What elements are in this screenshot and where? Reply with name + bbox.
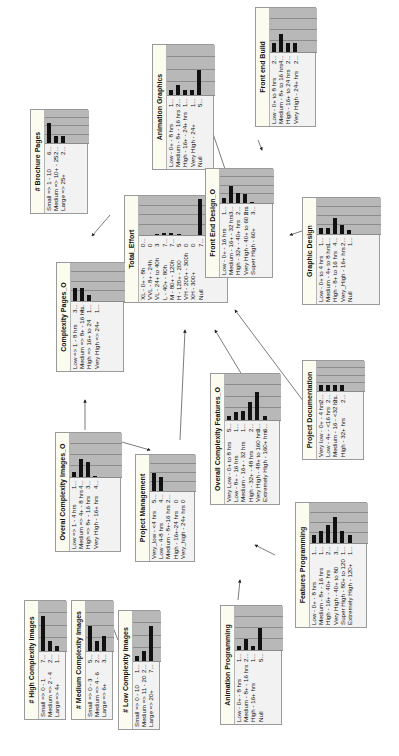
state-row[interactable]: Extremely High - 120+1... <box>346 503 353 627</box>
state-row[interactable]: High - 16+ - 24+ hrs1... <box>181 45 188 169</box>
state-row[interactable]: Small => 0 - 35... <box>86 601 93 719</box>
state-row[interactable]: Extremely High - 160+ hrs6... <box>261 374 268 504</box>
node-graphic-design[interactable]: Graphic DesignLow - 0+ to 4 hrs1...Mediu… <box>302 197 380 305</box>
state-row[interactable]: Medium - 16+ - 32 hrs3... <box>227 169 234 277</box>
state-row[interactable]: Very_High - 16+ hrs2... <box>339 198 346 304</box>
state-row[interactable]: Super High - 60+3... <box>249 169 256 277</box>
node-title: Animation Graphics <box>153 45 167 169</box>
state-row[interactable]: Large => 25+2... <box>59 110 66 213</box>
node-title: Project Documentation <box>303 361 317 459</box>
node-high-complexity-images[interactable]: # High Complexity ImagesSmall => 0 - 17.… <box>24 600 66 720</box>
state-row[interactable]: Low => 1 - 8 hrs3... <box>71 263 78 371</box>
state-row[interactable]: Medium - 8+ - 16 hrs2... <box>242 606 249 724</box>
bayesian-network-canvas: Total_EffortXL - 0+ - 8h0...VVL - 8+ - 2… <box>0 0 399 756</box>
state-row[interactable]: High - 32+ - 48 hrs2... <box>247 374 254 504</box>
state-label: High - 16+-24 hrs <box>172 511 179 559</box>
state-row[interactable]: Very High - 40+ to 60 hrs2... <box>242 169 249 277</box>
state-row[interactable]: Very High - 24+ hrs2... <box>292 8 299 126</box>
state-row[interactable]: L - 40+ - 80h7... <box>161 196 168 302</box>
node-features-programming[interactable]: Features ProgrammingLow - 0+ - 8 hrs1...… <box>295 502 367 628</box>
state-row[interactable]: Very_high - 24+ hrs0 <box>179 455 186 561</box>
state-label: High - 32+ - 40+ hrs <box>234 220 241 275</box>
state-row[interactable]: Null5... <box>257 606 264 724</box>
state-row[interactable]: XL - 0+ - 8h0... <box>139 196 146 302</box>
state-row[interactable]: Very High - 24+1... <box>189 45 196 169</box>
state-row[interactable]: Medium - 8+-16 hrs2... <box>164 455 171 561</box>
state-row[interactable]: Medium - 16 - <32 hrs2... <box>331 361 338 459</box>
node-overall-complexity-images[interactable]: Overal Complexity Images_OLow => 1 - 4 h… <box>55 432 121 552</box>
state-row[interactable]: Low => 1 - 4 hrs1... <box>70 433 77 551</box>
state-row[interactable]: Medium - 16+ - 32 hrs1... <box>239 374 246 504</box>
state-row[interactable]: High - 16+ to 24 hrs2... <box>284 8 291 126</box>
state-label: Medium => 8+ - 16 hrs <box>78 307 85 369</box>
state-row[interactable]: Low - 0+ - 16 hrs1... <box>220 169 227 277</box>
state-row[interactable]: Low - 4-8 hrs4... <box>157 455 164 561</box>
state-row[interactable]: Medium => 11 - 202... <box>140 611 147 729</box>
state-row[interactable]: XH - 300+0 <box>189 196 196 302</box>
state-row[interactable]: Low - 0+ to 8 hrs2... <box>270 8 277 126</box>
state-row[interactable]: Medium => 8+ - 16 hrs4... <box>78 263 85 371</box>
state-row[interactable]: Null1... <box>346 198 353 304</box>
state-row[interactable]: High - 8+ to 16 hrs4... <box>331 198 338 304</box>
state-row[interactable]: Low - 0+ - 8 hrs1... <box>310 503 317 627</box>
node-brochure-pages[interactable]: # Brochure PagesSmall => 1 - 106...Mediu… <box>30 109 88 214</box>
state-row[interactable]: Null7... <box>197 196 204 302</box>
node-front-end-build[interactable]: Front end BuildLow - 0+ to 8 hrs2...Medi… <box>255 7 316 127</box>
state-row[interactable]: High - 16+ - 40+ hrs2... <box>324 503 331 627</box>
state-row[interactable]: Large => 4+1... <box>53 601 60 719</box>
state-row[interactable]: VH - 200+ - 300h0 <box>182 196 189 302</box>
node-overall-complexity-features[interactable]: Overall Complexity Features_OVery Low - … <box>210 373 280 505</box>
state-row[interactable]: VL - 24+ to 40h3 <box>153 196 160 302</box>
state-row[interactable]: Medium - 4+ to 8 hrs1... <box>324 198 331 304</box>
node-project-documentation[interactable]: Project DocumentationVery low - 0+ - 4 h… <box>302 360 364 460</box>
state-row[interactable]: Super High - 80+ to 1201... <box>339 503 346 627</box>
node-title: Front End Design_O <box>206 169 220 277</box>
state-row[interactable]: Small => 1 - 106... <box>45 110 52 213</box>
state-row[interactable]: Low - 4+ - <16 hrs2... <box>324 361 331 459</box>
node-animation-graphics[interactable]: Animation GraphicsLow - 0+ - 8 hrs1...Me… <box>152 44 214 170</box>
state-row[interactable]: Low - 0+ - 8 hrs1... <box>167 45 174 169</box>
state-row[interactable]: Medium => 4 - 62... <box>93 601 100 719</box>
state-row[interactable]: Medium - 8+ to 16 hrs4... <box>277 8 284 126</box>
state-row[interactable]: Very High - 16+ hrs4... <box>92 433 99 551</box>
state-label: H - 120+ - 200 <box>175 260 182 300</box>
state-label: High - 16+ - 40+ hrs <box>324 570 331 625</box>
node-complexity-pages[interactable]: Complexity Pages_OLow => 1 - 8 hrs3...Me… <box>56 262 124 372</box>
node-front-end-design[interactable]: Front End Design_OLow - 0+ - 16 hrs1...M… <box>205 168 273 278</box>
state-row[interactable]: H - 120+ - 2005 <box>175 196 182 302</box>
node-low-complexity-images[interactable]: # Low Complexity ImagesSmall => 0 - 101.… <box>118 610 160 730</box>
state-row[interactable]: Null5... <box>196 45 203 169</box>
state-row[interactable]: Very High => 24+1... <box>93 263 100 371</box>
state-row[interactable]: VVL - 8+ - 24h0 <box>146 196 153 302</box>
state-probability: 2... <box>234 206 241 215</box>
state-row[interactable]: Low - 8+ - 16 hrs1... <box>232 374 239 504</box>
state-row[interactable]: Medium - 8+ - 16 hrs1... <box>317 503 324 627</box>
state-row[interactable]: Very High - 48+ to 160 hrs3... <box>254 374 261 504</box>
node-project-management[interactable]: Project ManagementVery_low - <4 hrs5...L… <box>135 454 195 562</box>
node-medium-complexity-images[interactable]: # Medium Complexity ImagesSmall => 0 - 3… <box>71 600 113 720</box>
state-row[interactable]: High => 16+ to 241... <box>85 263 92 371</box>
state-row[interactable]: High - 32+ - 40+ hrs2... <box>234 169 241 277</box>
state-row[interactable]: Large => 6+3... <box>100 601 107 719</box>
state-row[interactable]: Medium => 2 - 42... <box>46 601 53 719</box>
state-row[interactable]: High - 16+ hrs1... <box>249 606 256 724</box>
state-row[interactable]: Medium => 4+ - 8 hrs4... <box>77 433 84 551</box>
state-row[interactable]: Small => 0 - 17... <box>39 601 46 719</box>
state-row[interactable]: Very_low - <4 hrs5... <box>150 455 157 561</box>
state-row[interactable]: Large => 20+7... <box>147 611 154 729</box>
state-probability: 0 <box>182 244 189 247</box>
state-row[interactable]: Low - 0+ to 4 hrs1... <box>317 198 324 304</box>
state-row[interactable]: Small => 0 - 101... <box>133 611 140 729</box>
state-row[interactable]: High - 32+ hrs2... <box>339 361 346 459</box>
state-row[interactable]: M - 80+ - 120h7... <box>168 196 175 302</box>
state-row[interactable]: High - 16+-24 hrs0 <box>172 455 179 561</box>
node-animation-programming[interactable]: Animation ProgrammingLow - 0+ - 8 hrs1..… <box>220 605 282 725</box>
state-probability: 3... <box>84 480 91 489</box>
state-row[interactable]: Very low - 0+ - 4 hrs2... <box>317 361 324 459</box>
state-row[interactable]: Medium - 8+ - 16 hrs2... <box>174 45 181 169</box>
state-row[interactable]: Very High - 40+ to 803... <box>332 503 339 627</box>
state-row[interactable]: Low - 0+ - 8 hrs1... <box>235 606 242 724</box>
state-row[interactable]: Very Low - 0+ to 8 hrs5... <box>225 374 232 504</box>
state-row[interactable]: Medium => 10+ - 252... <box>52 110 59 213</box>
state-row[interactable]: High => 8+ - 16 hrs3... <box>84 433 91 551</box>
